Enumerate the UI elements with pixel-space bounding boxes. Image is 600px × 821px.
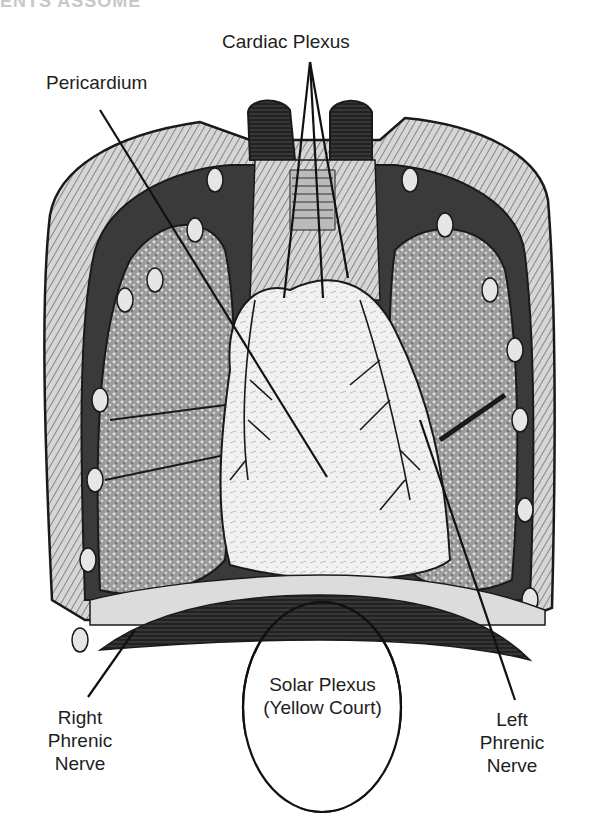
label-solar-plexus-line2: (Yellow Court) — [250, 696, 395, 719]
label-left-phrenic-nerve: Left Phrenic Nerve — [472, 708, 552, 777]
label-right-phrenic-line3: Nerve — [40, 752, 120, 775]
label-right-phrenic-nerve: Right Phrenic Nerve — [40, 706, 120, 775]
label-solar-plexus-line1: Solar Plexus — [250, 673, 395, 696]
label-left-phrenic-line2: Phrenic — [472, 731, 552, 754]
label-pericardium: Pericardium — [46, 71, 147, 94]
label-solar-plexus: Solar Plexus (Yellow Court) — [250, 673, 395, 719]
label-left-phrenic-line1: Left — [472, 708, 552, 731]
label-cardiac-plexus: Cardiac Plexus — [222, 30, 350, 53]
label-right-phrenic-line1: Right — [40, 706, 120, 729]
label-left-phrenic-line3: Nerve — [472, 754, 552, 777]
label-right-phrenic-line2: Phrenic — [40, 729, 120, 752]
